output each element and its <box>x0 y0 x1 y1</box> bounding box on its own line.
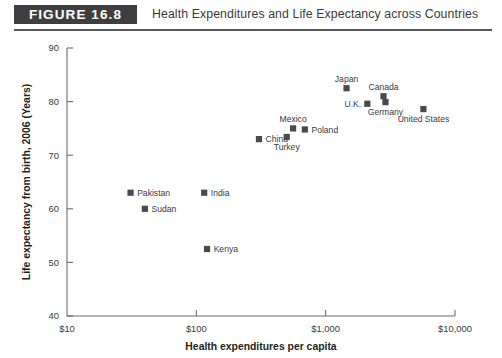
data-point-sudan <box>142 206 148 212</box>
x-tick-label-100: $100 <box>186 323 207 334</box>
figure-number-badge: FIGURE 16.8 <box>14 5 137 24</box>
data-label-turkey: Turkey <box>274 142 301 152</box>
data-label-mexico: Mexico <box>279 114 306 124</box>
x-tick-label-10000: $10,000 <box>438 323 472 334</box>
data-label-india: India <box>211 188 230 198</box>
y-axis-title: Life expectancy from birth, 2006 (Years) <box>21 84 32 280</box>
x-axis-ticks: $10$100$1,000$10,000 <box>59 310 472 334</box>
data-label-canada: Canada <box>368 82 398 92</box>
y-axis-ticks: 405060708090 <box>49 42 73 321</box>
figure-header: FIGURE 16.8 Health Expenditures and Life… <box>0 0 502 32</box>
data-point-united-states <box>420 106 426 112</box>
data-label-kenya: Kenya <box>214 244 239 254</box>
data-label-sudan: Sudan <box>151 204 176 214</box>
data-label-poland: Poland <box>311 125 338 135</box>
x-tick-label-10: $10 <box>59 323 75 334</box>
y-tick-label-80: 80 <box>49 96 59 107</box>
chart-plot-area: $10$100$1,000$10,000 405060708090 Pakist… <box>0 32 502 358</box>
data-point-poland <box>302 126 308 132</box>
data-label-pakistan: Pakistan <box>137 188 170 198</box>
data-points: PakistanSudanIndiaKenyaChinaTurkeyMexico… <box>127 74 449 255</box>
y-tick-label-90: 90 <box>49 42 59 53</box>
figure-title: Health Expenditures and Life Expectancy … <box>152 6 478 23</box>
data-point-japan <box>343 85 349 91</box>
data-point-mexico <box>290 125 296 131</box>
y-tick-label-60: 60 <box>49 203 59 214</box>
data-point-india <box>201 190 207 196</box>
data-point-canada <box>380 93 386 99</box>
axis-titles: Health expenditures per capitaLife expec… <box>21 84 337 352</box>
data-point-pakistan <box>127 190 133 196</box>
data-point-china <box>256 136 262 142</box>
x-axis-title: Health expenditures per capita <box>185 341 337 352</box>
y-tick-label-40: 40 <box>49 310 59 321</box>
data-point-turkey <box>284 134 290 140</box>
data-label-united-states: United States <box>398 114 450 124</box>
data-point-germany <box>382 99 388 105</box>
data-label-japan: Japan <box>335 74 359 84</box>
scatter-chart: $10$100$1,000$10,000 405060708090 Pakist… <box>0 32 502 358</box>
y-tick-label-70: 70 <box>49 150 59 161</box>
data-point-kenya <box>204 246 210 252</box>
data-label-u-k: U.K. <box>345 99 362 109</box>
header-divider <box>14 29 492 31</box>
y-tick-label-50: 50 <box>49 257 59 268</box>
x-tick-label-1000: $1,000 <box>311 323 340 334</box>
